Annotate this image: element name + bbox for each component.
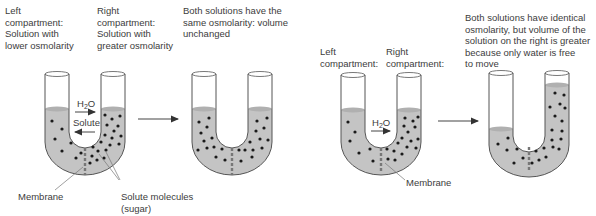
- u-tube-equilibrium-2: [489, 71, 569, 178]
- solute-label: Solute: [73, 117, 100, 128]
- u-tube-equilibrium-1: [192, 72, 272, 176]
- h2o-label-2: H2O: [372, 117, 390, 129]
- h2o-label-1: H2O: [77, 98, 95, 110]
- u-tube-initial-2: H2O: [341, 73, 421, 181]
- u-tube-initial: H2O Solute: [45, 72, 125, 191]
- osmosis-diagram: H2O Solute: [0, 0, 596, 216]
